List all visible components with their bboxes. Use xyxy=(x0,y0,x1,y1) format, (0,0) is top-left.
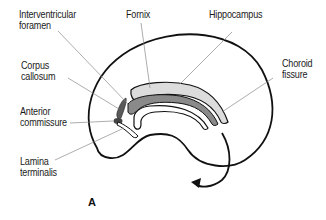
curved-arrow xyxy=(196,133,230,187)
label-line: Fornix xyxy=(126,9,150,20)
label-hippocampus: Hippocampus xyxy=(209,9,262,20)
label-choroid-fissure: Choroid fissure xyxy=(282,58,312,80)
label-line: foramen xyxy=(19,20,76,31)
label-anterior-commissure: Anterior commissure xyxy=(20,106,67,128)
label-line: Hippocampus xyxy=(209,9,262,20)
label-fornix: Fornix xyxy=(126,9,150,20)
label-line: callosum xyxy=(21,71,55,82)
label-lamina-terminalis: Lamina terminalis xyxy=(20,156,57,178)
panel-label: A xyxy=(88,196,96,208)
label-line: fissure xyxy=(282,69,312,80)
label-line: terminalis xyxy=(20,167,57,178)
label-corpus-callosum: Corpus callosum xyxy=(21,60,55,82)
label-interventricular-foramen: Interventricular foramen xyxy=(19,9,76,31)
label-line: commissure xyxy=(20,117,67,128)
